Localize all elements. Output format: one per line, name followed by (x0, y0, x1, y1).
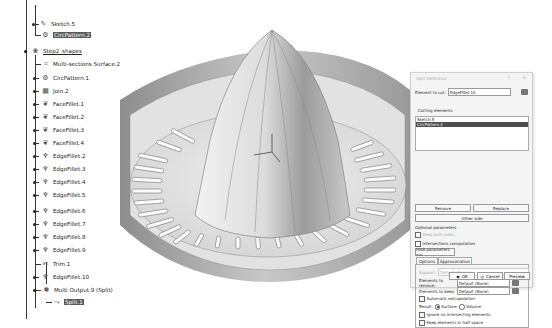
result-volume-radio[interactable] (459, 304, 465, 310)
trim-icon: ✄ (41, 260, 50, 269)
tree-node-edgefillet-5[interactable]: ♆ EdgeFillet.5 (33, 189, 86, 201)
tree-connector (33, 237, 39, 238)
intersections-computation-row[interactable]: Intersections computation (415, 241, 475, 247)
tree-node-edgefillet-7[interactable]: ♆ EdgeFillet.7 (33, 218, 86, 230)
tree-node-edgefillet-8[interactable]: ♆ EdgeFillet.8 (33, 231, 86, 243)
tree-node-edgefillet-9[interactable]: ♆ EdgeFillet.9 (33, 244, 86, 256)
remove-button[interactable]: Remove (415, 204, 471, 212)
tree-connector (33, 211, 39, 212)
tree-connector (33, 195, 39, 196)
elements-to-remove-field[interactable]: Default (None) (457, 279, 510, 287)
tree-connector (46, 302, 52, 303)
tree-connector (33, 78, 39, 79)
ok-button[interactable]: ◉ OK (449, 272, 475, 280)
automatic-extrapolation-checkbox[interactable] (419, 296, 425, 302)
face-fillet-icon: ❦ (41, 139, 50, 148)
tree-node-label: Step2_shapes (43, 48, 82, 54)
tree-connector (33, 290, 41, 291)
intersections-computation-checkbox[interactable] (415, 241, 421, 247)
tree-node-join-2[interactable]: ▦ Join.2 (33, 85, 69, 97)
tree-node-label: EdgeFillet.8 (53, 234, 86, 240)
selection-icon[interactable] (512, 280, 519, 286)
tree-connector (33, 156, 39, 157)
split-definition-dialog: Split Definition ? × Element to cut: Edg… (410, 72, 533, 288)
tree-node-edgefillet-3[interactable]: ♆ EdgeFillet.3 (33, 163, 86, 175)
tree-node-facefillet-2[interactable]: ❦ FaceFillet.2 (33, 111, 84, 123)
edge-fillet-icon: ♆ (41, 220, 50, 229)
other-side-button[interactable]: Other side (415, 214, 529, 222)
help-button[interactable]: ? (508, 75, 510, 80)
tree-node-edgefillet-6[interactable]: ♆ EdgeFillet.6 (33, 205, 86, 217)
ignore-non-intersecting-label: Ignore no intersecting elements (427, 312, 491, 317)
tree-node-facefillet-3[interactable]: ❦ FaceFillet.3 (33, 124, 84, 136)
ignore-non-intersecting-checkbox[interactable] (419, 312, 425, 318)
tree-node-circpattern-2[interactable]: ⚙ CircPattern.2 (35, 29, 91, 41)
result-surface-label: Surface (441, 304, 456, 309)
cancel-button[interactable]: ◎ Cancel (477, 272, 503, 280)
tree-connector (33, 130, 39, 131)
edge-fillet-icon: ♆ (41, 246, 50, 255)
tree-node-trim-1[interactable]: ✄ Trim.1 (35, 258, 70, 270)
selection-icon[interactable] (512, 288, 519, 294)
tree-connector (33, 169, 39, 170)
element-to-cut-label: Element to cut: (415, 90, 446, 95)
multi-output-icon: ✺ (42, 286, 51, 295)
cancel-label: Cancel (486, 274, 500, 279)
tree-node-label: EdgeFillet.2 (53, 153, 86, 159)
result-surface-radio[interactable] (435, 304, 441, 310)
tree-node-multi-output-9[interactable]: ✺ Multi Output.9 (Split) (33, 284, 113, 296)
specification-tree: ✎ Sketch.5 ⚙ CircPattern.2 ❀ Step2_shape… (0, 0, 140, 319)
tree-node-step2-shapes[interactable]: ❀ Step2_shapes (24, 45, 82, 57)
face-fillet-icon: ❦ (41, 113, 50, 122)
replace-button[interactable]: Replace (473, 204, 529, 212)
tree-node-label: Multi Output.9 (Split) (54, 287, 113, 293)
edge-fillet-icon: ♆ (41, 165, 50, 174)
dialog-titlebar[interactable]: Split Definition ? × (411, 73, 532, 83)
selection-icon[interactable] (521, 89, 528, 95)
result-label: Result: (419, 304, 433, 309)
elements-to-keep-label: Elements to keep: (419, 289, 457, 294)
keep-half-space-checkbox[interactable] (419, 320, 425, 326)
optional-parameters-row: Optional parameters (415, 225, 456, 230)
tree-node-multi-sections-surface-2[interactable]: ⌗ Multi-sections Surface.2 (35, 58, 120, 70)
tree-node-facefillet-1[interactable]: ❦ FaceFillet.1 (33, 98, 84, 110)
sketch-icon: ✎ (39, 20, 48, 29)
tree-connector (35, 64, 41, 65)
elements-to-keep-field[interactable]: Default (None) (457, 287, 510, 295)
list-item[interactable]: CircPattern.2 (416, 122, 528, 127)
automatic-extrapolation-row[interactable]: Automatic extrapolation (419, 296, 475, 302)
elements-to-keep-row: Elements to keep: Default (None) (419, 287, 519, 295)
keep-both-sides-row[interactable]: Keep both sides (415, 232, 454, 238)
hide-parameters-button[interactable]: Hide parameters << (415, 248, 455, 256)
keep-both-sides-checkbox[interactable] (415, 232, 421, 238)
tree-node-label: Multi-sections Surface.2 (53, 61, 120, 67)
element-to-cut-field[interactable]: EdgeFillet.10 (448, 88, 511, 96)
keep-half-space-row[interactable]: Keep elements in half space (419, 320, 483, 326)
face-fillet-icon: ❦ (41, 100, 50, 109)
ignore-non-intersecting-row[interactable]: Ignore no intersecting elements (419, 312, 490, 318)
tree-node-split-1[interactable]: ⤳ Split.1 (46, 296, 84, 308)
tree-node-label: EdgeFillet.7 (53, 221, 86, 227)
close-button[interactable]: × (522, 75, 526, 80)
expand-icon[interactable] (24, 50, 27, 53)
result-row: Result: Surface Volume (419, 304, 481, 310)
tree-node-facefillet-4[interactable]: ❦ FaceFillet.4 (33, 137, 84, 149)
tree-connector (33, 117, 39, 118)
tree-node-circpattern-1[interactable]: ⚙ CircPattern.1 (33, 72, 89, 84)
3d-viewport[interactable] (120, 20, 410, 310)
tree-node-edgefillet-2[interactable]: ♆ EdgeFillet.2 (33, 150, 86, 162)
cancel-icon: ◎ (480, 274, 484, 279)
citrus-juicer-model (120, 20, 410, 310)
tree-node-edgefillet-4[interactable]: ♆ EdgeFillet.4 (33, 176, 86, 188)
intersections-computation-label: Intersections computation (423, 241, 475, 246)
tree-connector (33, 24, 39, 25)
geometrical-set-icon: ❀ (31, 47, 40, 56)
ok-icon: ◉ (456, 274, 460, 279)
tree-node-edgefillet-10[interactable]: ♆ EdgeFillet.10 (33, 271, 89, 283)
automatic-extrapolation-label: Automatic extrapolation (427, 296, 475, 301)
tree-node-label: EdgeFillet.6 (53, 208, 86, 214)
split-icon: ⤳ (52, 298, 61, 307)
edge-fillet-icon: ♆ (41, 178, 50, 187)
preview-button[interactable]: Preview (504, 272, 530, 280)
cutting-elements-list[interactable]: Sketch.5 CircPattern.2 (415, 116, 529, 151)
